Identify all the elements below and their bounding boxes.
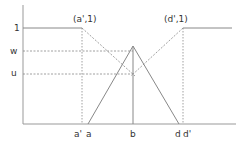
left-dashed-diagonal xyxy=(82,28,135,76)
point-label-d-prime-1: (d',1) xyxy=(164,14,188,24)
x-label-a-prime: a' xyxy=(74,129,82,139)
y-label-one: 1 xyxy=(14,23,20,33)
x-label-d: d xyxy=(175,129,181,139)
y-label-w: w xyxy=(10,46,17,56)
point-label-a-prime-1: (a',1) xyxy=(73,14,97,24)
x-label-a: a xyxy=(86,129,92,139)
right-dashed-diagonal xyxy=(131,28,183,76)
y-label-u: u xyxy=(11,68,17,78)
fuzzy-membership-diagram xyxy=(0,0,252,145)
x-label-b: b xyxy=(130,129,136,139)
x-label-d-prime: d' xyxy=(183,129,191,139)
